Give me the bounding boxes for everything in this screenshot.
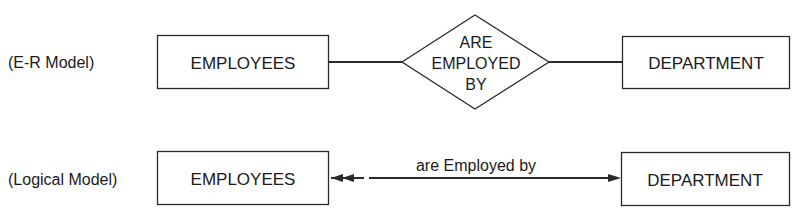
er-entity-employees-label: EMPLOYEES xyxy=(191,54,296,73)
logical-entity-department-label: DEPARTMENT xyxy=(647,171,763,190)
er-entity-department-label: DEPARTMENT xyxy=(648,54,764,73)
double-arrowhead-icon xyxy=(331,174,343,182)
er-entity-department: DEPARTMENT xyxy=(623,37,790,89)
logical-entity-employees-label: EMPLOYEES xyxy=(191,170,296,189)
logical-entity-employees: EMPLOYEES xyxy=(158,152,329,205)
logical-model-row-label: (Logical Model) xyxy=(8,171,117,188)
er-model-row-label: (E-R Model) xyxy=(8,54,94,71)
single-arrowhead-icon xyxy=(608,174,621,182)
logical-entity-department: DEPARTMENT xyxy=(622,153,790,206)
relationship-line-3: BY xyxy=(465,76,487,93)
relationship-line-1: ARE xyxy=(460,34,493,51)
relationship-line-2: EMPLOYED xyxy=(432,55,521,72)
logical-relationship-arrow xyxy=(331,174,621,182)
er-entity-employees: EMPLOYEES xyxy=(158,36,329,89)
logical-relationship-label: are Employed by xyxy=(416,157,536,174)
diagram-canvas: (E-R Model) EMPLOYEES ARE EMPLOYED BY DE… xyxy=(0,0,799,216)
er-relationship-diamond: ARE EMPLOYED BY xyxy=(402,15,549,109)
